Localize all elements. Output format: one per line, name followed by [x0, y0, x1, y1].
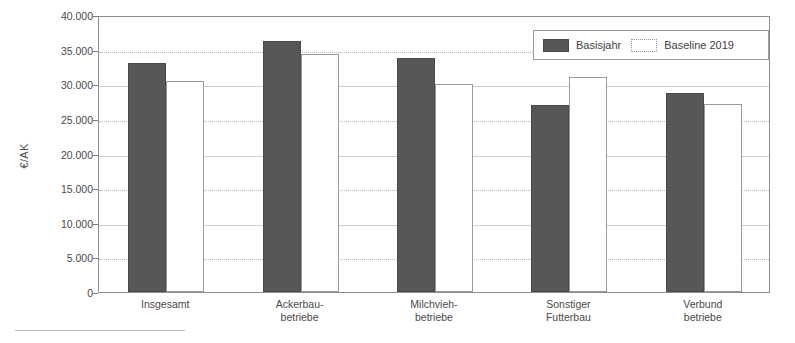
- y-axis-tick-label: 35.000: [33, 45, 93, 57]
- dark-filled-swatch-icon: [543, 39, 569, 52]
- bar-basisjahr: [666, 93, 704, 292]
- bar-baseline-2019: [301, 54, 339, 292]
- legend-item-baseline-2019: Baseline 2019: [631, 39, 734, 52]
- y-axis-title: €/AK: [18, 126, 30, 186]
- bar-basisjahr: [128, 63, 166, 292]
- legend-item-basisjahr: Basisjahr: [543, 39, 621, 52]
- legend-label-baseline-2019: Baseline 2019: [664, 39, 734, 51]
- bar-basisjahr: [263, 41, 301, 292]
- y-axis-tick-label: 40.000: [33, 10, 93, 22]
- light-outline-swatch-icon: [631, 39, 657, 52]
- chart-legend: Basisjahr Baseline 2019: [533, 30, 769, 60]
- bar-basisjahr: [531, 105, 569, 292]
- y-axis-tick-mark: [93, 293, 98, 294]
- x-axis-category-label: Milchvieh- betriebe: [367, 298, 501, 324]
- x-axis-category-label: Verbund betriebe: [636, 298, 770, 324]
- y-axis-tick-label: 5.000: [33, 252, 93, 264]
- bar-baseline-2019: [435, 84, 473, 292]
- bar-baseline-2019: [166, 81, 204, 292]
- y-axis-tick-label: 20.000: [33, 149, 93, 161]
- legend-label-basisjahr: Basisjahr: [576, 39, 621, 51]
- y-axis-tick-label: 10.000: [33, 218, 93, 230]
- bar-chart-figure: €/AK 05.00010.00015.00020.00025.00030.00…: [0, 0, 795, 343]
- x-axis-category-label: Sonstiger Futterbau: [501, 298, 635, 324]
- bar-basisjahr: [397, 58, 435, 292]
- y-axis-tick-label: 25.000: [33, 114, 93, 126]
- bar-baseline-2019: [569, 77, 607, 292]
- y-axis-tick-label: 30.000: [33, 79, 93, 91]
- y-axis-tick-label: 0: [33, 287, 93, 299]
- x-axis-category-label: Insgesamt: [98, 298, 232, 311]
- bar-baseline-2019: [704, 104, 742, 292]
- x-axis-category-label: Ackerbau- betriebe: [232, 298, 366, 324]
- footnote-separator-rule: [15, 330, 185, 331]
- y-axis-tick-label: 15.000: [33, 183, 93, 195]
